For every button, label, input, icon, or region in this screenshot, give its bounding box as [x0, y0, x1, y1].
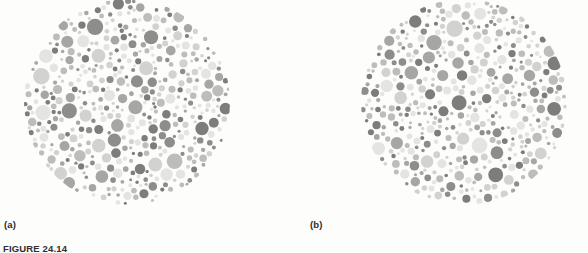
figure-panel-b: [361, 0, 567, 232]
ishihara-plate-b-graphic: [361, 0, 567, 218]
figure-panel-a: [24, 0, 230, 232]
ishihara-plate-a-graphic: [24, 0, 230, 218]
ishihara-plate-a: [24, 0, 230, 218]
ishihara-plate-b: [361, 0, 567, 218]
panel-label-b: (b): [310, 219, 322, 230]
figure-caption: FIGURE 24.14: [3, 243, 563, 253]
panel-label-a: (a): [4, 219, 16, 230]
figure-page: (a) (b) FIGURE 24.14: [0, 0, 588, 253]
